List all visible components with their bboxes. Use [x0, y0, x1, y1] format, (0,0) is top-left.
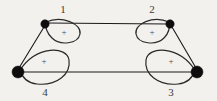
vertex-node-1	[41, 20, 49, 28]
vertex-label-4: 4	[42, 86, 48, 98]
edge-2-3	[172, 27, 196, 68]
vertex-label-3: 3	[168, 86, 174, 98]
edge-1-4	[19, 27, 44, 68]
loop-sign-vertex-1: +	[61, 27, 66, 37]
loop-sign-vertex-2: +	[149, 27, 154, 37]
vertex-label-1: 1	[60, 3, 66, 15]
vertex-label-2: 2	[149, 3, 155, 15]
edge-1-2	[47, 23, 168, 24]
loop-sign-vertex-3: +	[168, 56, 173, 66]
vertex-node-2	[166, 20, 174, 28]
graph-canvas: + + + + 1 2 3 4	[0, 0, 217, 101]
loop-sign-vertex-4: +	[41, 56, 46, 66]
vertex-node-3	[191, 66, 203, 78]
graph-diagram: + + + + 1 2 3 4	[0, 0, 217, 101]
vertex-node-4	[12, 66, 24, 78]
